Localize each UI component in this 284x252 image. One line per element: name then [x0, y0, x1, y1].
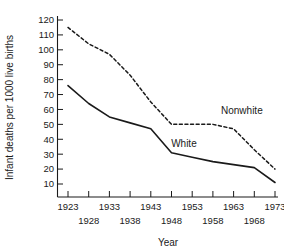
y-tick-label: 50 [43, 119, 54, 130]
y-tick-label: 90 [43, 59, 54, 70]
x-tick-label: 1953 [182, 201, 203, 212]
series-annotations: NonwhiteWhite [171, 105, 263, 149]
y-axis-ticks [58, 20, 64, 184]
infant-mortality-line-chart: 120110100908070605040302010 192319331943… [0, 0, 284, 252]
y-tick-label: 110 [39, 29, 54, 40]
x-tick-label: 1933 [99, 201, 120, 212]
x-tick-label: 1928 [78, 215, 99, 226]
x-tick-label: 1948 [161, 215, 182, 226]
y-axis-tick-labels: 120110100908070605040302010 [38, 14, 54, 189]
x-axis-ticks [68, 191, 275, 197]
y-tick-label: 120 [38, 14, 54, 25]
series-label-white: White [171, 138, 197, 149]
x-tick-label: 1963 [223, 201, 244, 212]
y-tick-label: 40 [43, 134, 54, 145]
x-tick-label: 1973 [264, 201, 284, 212]
chart-canvas: 120110100908070605040302010 192319331943… [0, 0, 284, 252]
y-tick-label: 10 [43, 178, 54, 189]
x-tick-label: 1943 [140, 201, 161, 212]
x-tick-label: 1938 [120, 215, 141, 226]
y-axis-title: Infant deaths per 1000 live births [4, 35, 15, 180]
series-label-nonwhite: Nonwhite [221, 105, 263, 116]
series-line-white [68, 86, 275, 183]
x-axis-tick-labels-bottom-row: 19281938194819581968 [78, 215, 265, 226]
y-tick-label: 30 [43, 149, 54, 160]
x-tick-label: 1958 [202, 215, 223, 226]
x-axis-tick-labels-top-row: 192319331943195319631973 [57, 201, 284, 212]
x-tick-label: 1968 [244, 215, 265, 226]
y-tick-label: 20 [43, 163, 54, 174]
y-tick-label: 100 [38, 44, 54, 55]
y-tick-label: 80 [43, 74, 54, 85]
y-tick-label: 60 [43, 104, 54, 115]
x-tick-label: 1923 [57, 201, 78, 212]
x-axis-title: Year [158, 237, 179, 248]
y-tick-label: 70 [43, 89, 54, 100]
